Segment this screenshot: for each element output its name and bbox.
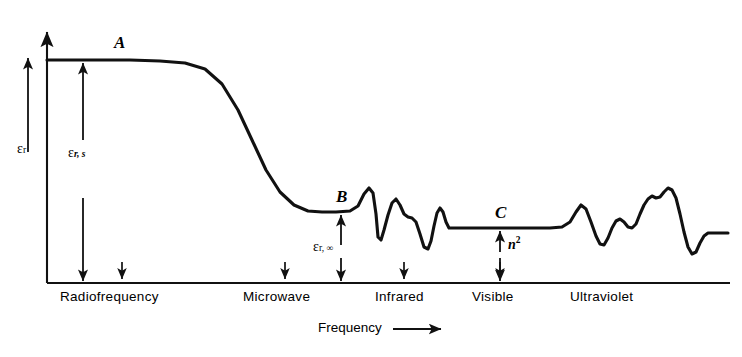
plateau-label-a: A <box>114 34 125 51</box>
dispersion-curve <box>47 60 728 254</box>
epsilon-r-infinity-label: εr, ∞ <box>313 240 333 254</box>
band-label-radiofrequency: Radiofrequency <box>60 290 159 304</box>
dielectric-dispersion-figure: εr εr, s εr, ∞ n2 A B C Radiofrequency M… <box>0 0 742 357</box>
band-label-microwave: Microwave <box>243 290 310 304</box>
epsilon-r-static-subscript: r, s <box>74 149 86 159</box>
plateau-label-c: C <box>495 204 506 221</box>
band-label-ultraviolet: Ultraviolet <box>570 290 633 304</box>
y-axis-label: εr <box>17 142 26 156</box>
x-axis-label: Frequency <box>318 321 382 335</box>
x-axis-ticks <box>122 262 500 279</box>
epsilon-r-infinity-subscript: r, ∞ <box>319 243 333 253</box>
band-label-visible: Visible <box>472 290 514 304</box>
y-axis-label-subscript: r <box>23 145 26 155</box>
band-label-infrared: Infrared <box>375 290 424 304</box>
n-squared-exponent: 2 <box>516 235 521 245</box>
epsilon-r-static-label: εr, s <box>68 146 86 160</box>
plateau-label-b: B <box>336 188 347 205</box>
n-squared-label: n2 <box>508 236 521 252</box>
